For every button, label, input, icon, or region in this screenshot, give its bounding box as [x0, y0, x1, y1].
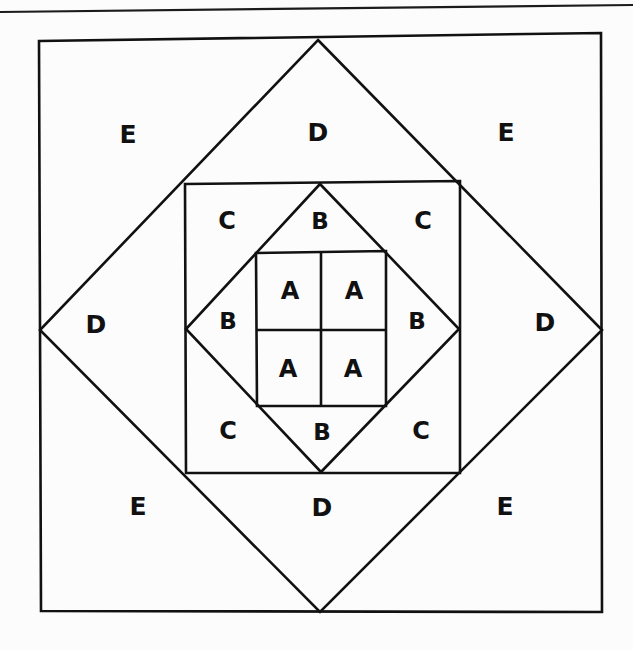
- label-region-d-left: D: [86, 310, 107, 339]
- label-region-e-bottom-right: E: [496, 492, 513, 521]
- label-region-b-left: B: [219, 308, 237, 334]
- diagram-page: E E E E D D D D C C C C B B B B A A A A: [0, 0, 633, 650]
- label-region-e-top-right: E: [497, 118, 514, 147]
- label-region-a-bottom-right: A: [344, 355, 363, 383]
- label-region-e-bottom-left: E: [129, 492, 146, 521]
- label-region-b-right: B: [408, 308, 426, 334]
- label-region-a-bottom-left: A: [279, 355, 298, 383]
- label-region-c-bottom-right: C: [412, 417, 430, 445]
- label-region-a-top-right: A: [345, 277, 364, 305]
- label-region-b-bottom: B: [313, 419, 331, 445]
- label-region-d-bottom: D: [312, 493, 333, 522]
- label-region-d-right: D: [535, 308, 556, 337]
- geometric-figure: E E E E D D D D C C C C B B B B A A A A: [0, 0, 633, 650]
- label-region-d-top: D: [308, 118, 329, 147]
- label-region-c-bottom-left: C: [219, 417, 237, 445]
- label-region-b-top: B: [311, 208, 329, 234]
- label-region-a-top-left: A: [281, 277, 300, 305]
- label-region-c-top-left: C: [218, 207, 236, 235]
- label-region-c-top-right: C: [414, 207, 432, 235]
- label-region-e-top-left: E: [119, 120, 136, 149]
